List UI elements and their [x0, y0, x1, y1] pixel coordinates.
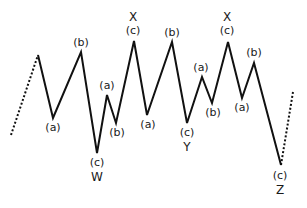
subwave-label: (a) [140, 119, 155, 131]
subwave-label: (c) [273, 170, 288, 182]
subwave-label: (c) [126, 25, 141, 37]
wave-degree-label: X [223, 11, 231, 23]
subwave-label: (b) [164, 27, 180, 39]
subwave-label: (b) [246, 47, 262, 59]
wave-degree-label: W [91, 171, 103, 183]
subwave-label: (a) [45, 122, 60, 134]
wave-degree-label: Y [183, 141, 190, 153]
dotted-lead-in-line [11, 55, 38, 135]
wave-degree-label: Z [276, 184, 284, 196]
subwave-label: (c) [90, 157, 105, 169]
dotted-lead-out-line [281, 92, 293, 165]
subwave-label: (c) [180, 127, 195, 139]
wave-degree-label: X [129, 11, 137, 23]
subwave-label: (b) [109, 127, 125, 139]
wave-diagram [0, 0, 307, 208]
subwave-label: (a) [234, 102, 249, 114]
subwave-label: (c) [220, 25, 235, 37]
subwave-label: (b) [73, 37, 89, 49]
subwave-label: (a) [193, 62, 208, 74]
subwave-label: (a) [99, 80, 114, 92]
subwave-label: (b) [205, 107, 221, 119]
